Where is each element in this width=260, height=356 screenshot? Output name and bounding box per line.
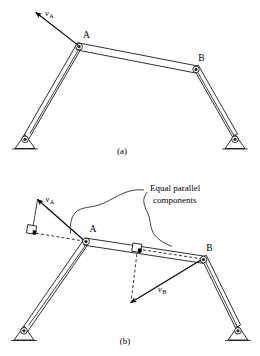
velocity-subscript: A	[49, 12, 54, 19]
linkage-diagram: A B vA (a)	[0, 0, 260, 356]
annotation-line-2: components	[153, 195, 197, 205]
link-right-crank-a	[193, 65, 237, 137]
pin-joint-a-panel-b	[83, 238, 90, 245]
panel-a: A B vA (a)	[13, 8, 248, 157]
ground-support-right-b	[226, 326, 251, 341]
ground-support-left-b	[12, 326, 37, 341]
panel-b: Equal parallel components A B vA vB (b)	[12, 183, 251, 346]
velocity-label-a-panel-a: vA	[45, 8, 54, 19]
annotation-line-1: Equal parallel	[150, 183, 201, 193]
pin-joint-b-panel-b	[200, 256, 207, 263]
velocity-vector-b-panel-b	[131, 259, 203, 303]
link-left-crank-a	[23, 45, 82, 141]
ground-support-right-a	[223, 135, 248, 150]
figure-root: A B vA (a)	[0, 0, 260, 356]
joint-label-b-panel-a: B	[198, 53, 204, 63]
panel-caption-a: (a)	[117, 146, 127, 156]
joint-label-b-panel-b: B	[206, 243, 212, 253]
link-right-crank-b	[201, 256, 240, 329]
joint-label-a-panel-b: A	[90, 224, 97, 234]
joint-label-a-panel-a: A	[83, 30, 90, 40]
pin-joint-b-panel-a	[193, 66, 199, 72]
velocity-vector-a-panel-b	[38, 200, 85, 242]
link-coupler-a	[77, 43, 196, 73]
velocity-subscript: B	[162, 288, 166, 295]
velocity-subscript: A	[50, 198, 55, 205]
panel-caption-b: (b)	[120, 336, 131, 346]
velocity-label-b-panel-b: vB	[158, 284, 166, 295]
link-left-crank-b	[22, 240, 89, 333]
link-coupler-b	[84, 238, 204, 263]
velocity-vector-a-panel-a	[36, 13, 78, 46]
right-angle-marker-b	[132, 243, 142, 253]
velocity-label-a-panel-b: vA	[46, 194, 55, 205]
perpendicular-side-b	[131, 249, 138, 303]
ground-support-left-a	[13, 135, 38, 150]
right-angle-marker-a	[26, 225, 36, 235]
